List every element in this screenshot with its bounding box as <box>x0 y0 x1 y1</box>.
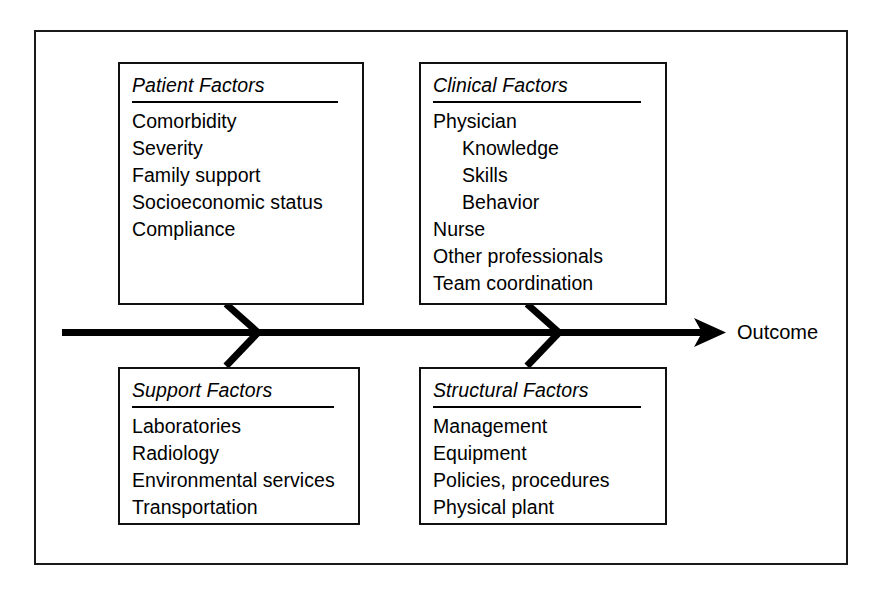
factor-box-support-title-rule <box>132 406 334 408</box>
list-item: Policies, procedures <box>433 467 651 494</box>
outcome-label: Outcome <box>737 318 818 346</box>
list-item: Physical plant <box>433 494 651 521</box>
factor-box-clinical: Clinical Factors Physician Knowledge Ski… <box>419 62 667 305</box>
factor-box-clinical-title-rule <box>433 101 641 103</box>
list-item: Skills <box>433 162 651 189</box>
factor-box-clinical-title: Clinical Factors <box>433 73 651 101</box>
factor-box-structural-items: Management Equipment Policies, procedure… <box>433 413 651 521</box>
factor-box-structural: Structural Factors Management Equipment … <box>419 367 667 525</box>
factor-box-support-title: Support Factors <box>132 378 344 406</box>
factor-box-patient: Patient Factors Comorbidity Severity Fam… <box>118 62 364 305</box>
list-item: Team coordination <box>433 270 651 297</box>
factor-box-patient-title-rule <box>132 101 338 103</box>
list-item: Laboratories <box>132 413 344 440</box>
list-item: Severity <box>132 135 348 162</box>
rib-patient <box>226 304 258 333</box>
factor-box-patient-items: Comorbidity Severity Family support Soci… <box>132 108 348 243</box>
list-item: Comorbidity <box>132 108 348 135</box>
list-item: Behavior <box>433 189 651 216</box>
factor-box-support-items: Laboratories Radiology Environmental ser… <box>132 413 344 521</box>
list-item: Family support <box>132 162 348 189</box>
list-item: Radiology <box>132 440 344 467</box>
list-item: Management <box>433 413 651 440</box>
list-item: Transportation <box>132 494 344 521</box>
list-item: Equipment <box>433 440 651 467</box>
rib-clinical <box>527 304 559 333</box>
factor-box-structural-title: Structural Factors <box>433 378 651 406</box>
list-item: Other professionals <box>433 243 651 270</box>
list-item: Nurse <box>433 216 651 243</box>
factor-box-clinical-items: Physician Knowledge Skills Behavior Nurs… <box>433 108 651 297</box>
list-item: Environmental services <box>132 467 344 494</box>
rib-support <box>226 333 258 367</box>
rib-structural <box>527 333 559 367</box>
factor-box-patient-title: Patient Factors <box>132 73 348 101</box>
factor-box-structural-title-rule <box>433 406 641 408</box>
list-item: Compliance <box>132 216 348 243</box>
list-item: Physician <box>433 108 651 135</box>
fishbone-diagram-figure: Patient Factors Comorbidity Severity Fam… <box>0 0 877 590</box>
list-item: Knowledge <box>433 135 651 162</box>
list-item: Socioeconomic status <box>132 189 348 216</box>
factor-box-support: Support Factors Laboratories Radiology E… <box>118 367 360 525</box>
